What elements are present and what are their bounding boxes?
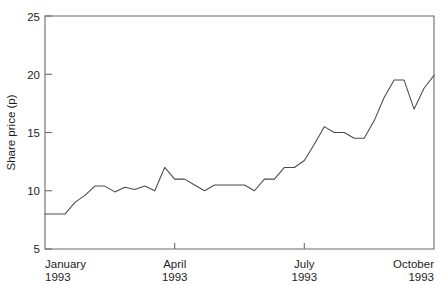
line-chart-svg: 25 20 15 10 5 Share price (p) January 19… [0,0,444,285]
x-tick-label-year-april: 1993 [162,271,188,283]
x-tick-label-year-july: 1993 [292,271,318,283]
x-tick-label-year-january: 1993 [45,271,71,283]
y-tick-label-15: 15 [27,127,40,139]
plot-frame [45,16,434,249]
cropped-title-artifact [0,0,444,6]
y-axis-tick-labels: 25 20 15 10 5 [27,11,40,256]
y-axis-title: Share price (p) [5,94,17,170]
y-tick-label-5: 5 [34,243,40,255]
y-tick-label-20: 20 [27,69,40,81]
y-tick-label-10: 10 [27,185,40,197]
x-tick-label-month-january: January [45,258,86,270]
data-series-group [45,75,434,214]
x-tick-label-year-october: 1993 [408,271,434,283]
y-tick-label-25: 25 [27,11,40,23]
x-axis-tick-labels: January 1993 April 1993 July 1993 Octobe… [45,258,434,283]
x-tick-label-month-july: July [294,258,315,270]
x-tick-label-month-april: April [163,258,186,270]
x-axis-ticks [175,243,305,249]
y-axis-title-text: Share price (p) [5,94,17,170]
share-price-line [45,75,434,214]
x-tick-label-month-october: October [393,258,434,270]
chart-figure: 25 20 15 10 5 Share price (p) January 19… [0,0,444,285]
